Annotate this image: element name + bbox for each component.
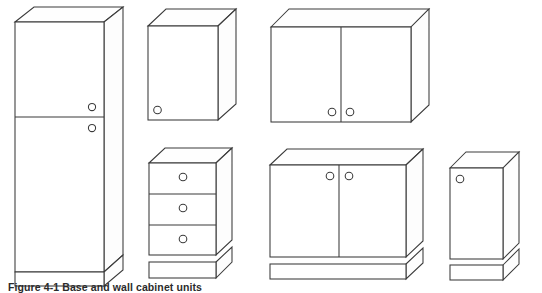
base-unit-double-top-face — [270, 149, 423, 165]
figure-caption: Figure 4-1 Base and wall cabinet units — [8, 281, 202, 293]
base-unit-single — [450, 152, 519, 280]
drawer-unit-plinth-front — [149, 262, 216, 278]
wall-unit-double-left-door-handle — [328, 108, 336, 116]
base-unit-double-side-face — [406, 149, 423, 257]
base-unit-double — [270, 149, 423, 279]
wall-unit-single — [148, 9, 236, 120]
wall-unit-double-right-door-handle — [346, 108, 354, 116]
tall-unit-front-face — [15, 22, 104, 272]
wall-unit-double-top-face — [271, 9, 429, 27]
drawer-unit-handle-bottom — [179, 235, 187, 243]
drawer-unit-handle-middle — [179, 204, 187, 212]
drawer-base-unit — [149, 148, 232, 278]
tall-unit-lower-door-handle — [88, 124, 95, 131]
drawer-unit-handle-top — [179, 173, 187, 181]
base-unit-double-left-door-handle — [326, 172, 334, 180]
wall-unit-double-side-face — [411, 9, 429, 122]
tall-unit-upper-door-handle — [88, 103, 95, 110]
base-unit-single-side-face — [503, 152, 519, 259]
tall-larder-unit — [15, 7, 123, 286]
wall-unit-single-door-handle — [154, 106, 162, 114]
drawer-unit-side-face — [216, 148, 232, 255]
base-unit-double-front-face — [270, 165, 406, 257]
tall-unit-side-face — [104, 7, 123, 272]
base-unit-single-plinth-front — [450, 265, 503, 280]
base-unit-single-door-handle — [456, 175, 464, 183]
wall-unit-double — [271, 9, 429, 122]
wall-unit-single-side-face — [218, 9, 236, 120]
base-unit-double-right-door-handle — [345, 172, 353, 180]
base-unit-double-plinth-front — [270, 264, 406, 279]
